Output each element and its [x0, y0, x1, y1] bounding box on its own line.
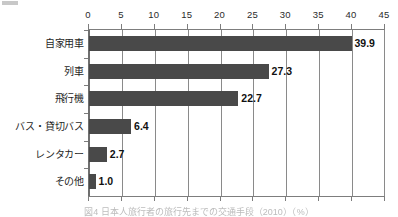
gridline-15 — [188, 30, 189, 196]
x-axis-bottom-rule — [88, 196, 384, 197]
figure-caption: 図4 日本人旅行者の旅行先までの交通手段（2010）（%） — [0, 205, 398, 217]
xtick-label-6: 30 — [280, 9, 291, 20]
xtick-bottom-6 — [285, 196, 286, 201]
gridline-10 — [155, 30, 156, 196]
category-label-4: レンタカー — [0, 147, 84, 162]
category-label-0: 自家用車 — [0, 36, 84, 51]
plot-area — [88, 30, 384, 196]
value-label-4: 2.7 — [110, 147, 125, 162]
category-label-3: バス・貸切バス — [0, 119, 84, 134]
gridline-35 — [319, 30, 320, 196]
bar-0 — [89, 36, 352, 51]
xtick-label-9: 45 — [379, 9, 390, 20]
gridline-0 — [89, 30, 90, 196]
category-label-5: その他 — [0, 174, 84, 189]
xtick-label-3: 15 — [181, 9, 192, 20]
bar-3 — [89, 119, 131, 134]
xtick-bottom-5 — [252, 196, 253, 201]
xtick-bottom-7 — [318, 196, 319, 201]
xtick-bottom-4 — [220, 196, 221, 201]
xtick-label-1: 5 — [118, 9, 123, 20]
value-label-2: 22.7 — [241, 91, 261, 106]
xtick-label-2: 10 — [148, 9, 159, 20]
category-tick-1 — [84, 58, 88, 59]
xtick-label-0: 0 — [85, 9, 90, 20]
category-label-2: 飛行機 — [0, 91, 84, 106]
value-label-5: 1.0 — [99, 174, 114, 189]
category-label-1: 列車 — [0, 64, 84, 79]
category-tick-4 — [84, 141, 88, 142]
xtick-bottom-8 — [351, 196, 352, 201]
xtick-label-8: 40 — [346, 9, 357, 20]
gridline-20 — [221, 30, 222, 196]
xtick-label-7: 35 — [313, 9, 324, 20]
bar-chart: 0 5 10 15 20 25 30 35 40 45 — [0, 0, 398, 217]
value-label-3: 6.4 — [134, 119, 149, 134]
xtick-bottom-9 — [384, 196, 385, 201]
xtick-label-4: 20 — [214, 9, 225, 20]
category-tick-2 — [84, 85, 88, 86]
category-tick-0 — [84, 30, 88, 31]
bar-1 — [89, 64, 269, 79]
gridline-40 — [352, 30, 353, 196]
xtick-bottom-3 — [187, 196, 188, 201]
xtick-bottom-1 — [121, 196, 122, 201]
bar-4 — [89, 147, 107, 162]
category-tick-5 — [84, 168, 88, 169]
chart-figure: 0 5 10 15 20 25 30 35 40 45 — [0, 0, 398, 217]
bar-5 — [89, 174, 96, 189]
xtick-bottom-0 — [88, 196, 89, 201]
gridline-45 — [384, 30, 385, 196]
gridline-25 — [253, 30, 254, 196]
bar-2 — [89, 91, 238, 106]
value-label-0: 39.9 — [355, 36, 375, 51]
category-tick-3 — [84, 113, 88, 114]
gridline-30 — [286, 30, 287, 196]
xtick-label-5: 25 — [247, 9, 258, 20]
xtick-bottom-2 — [154, 196, 155, 201]
gridline-5 — [122, 30, 123, 196]
value-label-1: 27.3 — [272, 64, 292, 79]
